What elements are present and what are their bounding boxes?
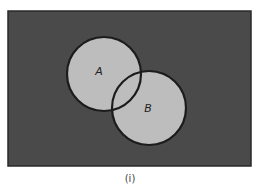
figure-caption: (i) [0,173,260,184]
set-a-label: A [94,65,103,78]
venn-diagram: A B [0,0,268,187]
set-b-label: B [144,102,152,115]
